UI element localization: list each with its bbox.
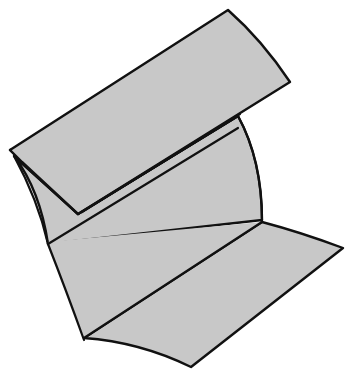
folded-paper-diagram [0,0,349,387]
